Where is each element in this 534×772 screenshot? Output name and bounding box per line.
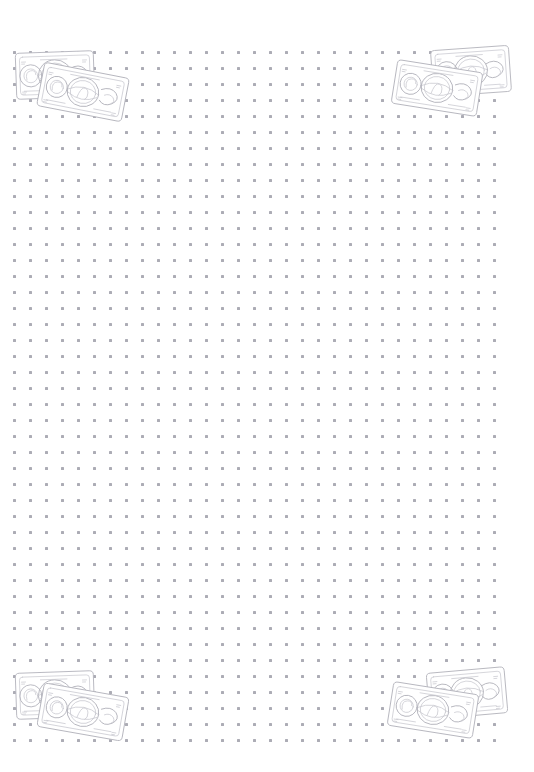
grid-dot — [333, 547, 336, 550]
grid-dot — [125, 451, 128, 454]
grid-dot — [269, 563, 272, 566]
grid-dot — [317, 547, 320, 550]
grid-dot — [333, 83, 336, 86]
grid-dot — [157, 99, 160, 102]
grid-dot — [141, 291, 144, 294]
grid-dot — [461, 419, 464, 422]
grid-dot — [93, 243, 96, 246]
grid-dot — [45, 483, 48, 486]
grid-dot — [381, 499, 384, 502]
grid-dot — [381, 67, 384, 70]
grid-dot — [269, 99, 272, 102]
grid-dot — [93, 163, 96, 166]
grid-dot — [45, 531, 48, 534]
grid-dot — [125, 611, 128, 614]
grid-dot — [157, 627, 160, 630]
grid-dot — [301, 147, 304, 150]
grid-dot — [413, 387, 416, 390]
grid-dot — [381, 355, 384, 358]
grid-dot — [189, 355, 192, 358]
grid-dot — [61, 419, 64, 422]
grid-dot — [365, 403, 368, 406]
grid-dot — [397, 579, 400, 582]
grid-dot — [285, 115, 288, 118]
grid-dot — [285, 627, 288, 630]
grid-dot — [253, 547, 256, 550]
grid-dot — [461, 259, 464, 262]
grid-dot — [237, 275, 240, 278]
grid-dot — [477, 147, 480, 150]
grid-dot — [461, 227, 464, 230]
grid-dot — [125, 275, 128, 278]
grid-dot — [45, 163, 48, 166]
grid-dot — [349, 307, 352, 310]
grid-dot — [493, 563, 496, 566]
grid-dot — [429, 627, 432, 630]
grid-dot — [29, 371, 32, 374]
grid-dot — [61, 403, 64, 406]
grid-dot — [429, 659, 432, 662]
grid-dot — [125, 259, 128, 262]
grid-dot — [253, 435, 256, 438]
grid-dot — [77, 611, 80, 614]
grid-dot — [317, 707, 320, 710]
grid-dot — [93, 211, 96, 214]
grid-dot — [253, 515, 256, 518]
grid-dot — [445, 307, 448, 310]
grid-dot — [93, 627, 96, 630]
grid-dot — [45, 499, 48, 502]
grid-dot — [317, 131, 320, 134]
grid-dot — [253, 67, 256, 70]
grid-dot — [381, 147, 384, 150]
grid-dot — [397, 195, 400, 198]
grid-dot — [109, 163, 112, 166]
grid-dot — [125, 211, 128, 214]
grid-dot — [141, 435, 144, 438]
grid-dot — [269, 195, 272, 198]
grid-dot — [461, 355, 464, 358]
grid-dot — [221, 83, 224, 86]
grid-dot — [413, 195, 416, 198]
grid-dot — [141, 563, 144, 566]
grid-dot — [461, 387, 464, 390]
grid-dot — [333, 643, 336, 646]
grid-dot — [125, 307, 128, 310]
grid-dot — [349, 643, 352, 646]
grid-dot — [189, 147, 192, 150]
grid-dot — [109, 579, 112, 582]
grid-dot — [349, 739, 352, 742]
grid-dot — [173, 531, 176, 534]
banknotes-illustration — [12, 668, 142, 744]
grid-dot — [493, 595, 496, 598]
grid-dot — [301, 131, 304, 134]
grid-dot — [29, 227, 32, 230]
grid-dot — [269, 739, 272, 742]
grid-dot — [253, 131, 256, 134]
grid-dot — [13, 131, 16, 134]
grid-dot — [29, 403, 32, 406]
grid-dot — [221, 643, 224, 646]
grid-dot — [205, 307, 208, 310]
grid-dot — [237, 643, 240, 646]
grid-dot — [493, 339, 496, 342]
grid-dot — [221, 723, 224, 726]
grid-dot — [429, 419, 432, 422]
grid-dot — [77, 323, 80, 326]
grid-dot — [333, 51, 336, 54]
grid-dot — [61, 451, 64, 454]
grid-dot — [349, 531, 352, 534]
grid-dot — [269, 675, 272, 678]
grid-dot — [413, 339, 416, 342]
grid-dot — [301, 691, 304, 694]
grid-dot — [61, 467, 64, 470]
grid-dot — [29, 419, 32, 422]
grid-dot — [477, 339, 480, 342]
grid-dot — [109, 323, 112, 326]
grid-dot — [461, 531, 464, 534]
grid-dot — [173, 467, 176, 470]
grid-dot — [29, 659, 32, 662]
grid-dot — [493, 643, 496, 646]
grid-dot — [61, 371, 64, 374]
grid-dot — [445, 451, 448, 454]
grid-dot — [445, 499, 448, 502]
